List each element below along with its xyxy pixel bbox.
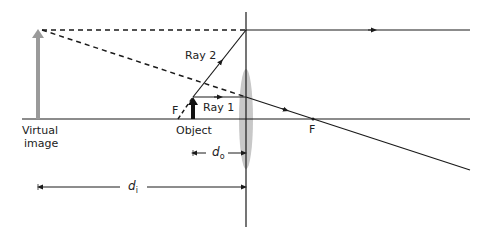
dashed-extension-ray1 [42,30,246,97]
virtual-image-label-line2: image [24,138,58,150]
ray2-label: Ray 2 [185,50,216,62]
focal-right-label: F [309,124,315,136]
do-letter: d [212,145,220,159]
di-letter: d [128,179,136,193]
ray1-refracted-direction-icon [282,109,286,110]
object-label: Object [176,125,212,137]
di-label: di [128,180,138,197]
do-label: do [212,146,225,163]
focal-left-label: F [172,105,178,117]
focal-point-right [312,118,315,121]
ray1-refracted [246,97,470,170]
dashed-ray2-from-focal [178,97,193,119]
virtual-image-label-line1: Virtual [22,125,58,137]
ray-diagram [0,0,492,239]
do-subscript: o [220,152,225,161]
ray1-label: Ray 1 [203,102,234,114]
di-subscript: i [136,186,138,195]
